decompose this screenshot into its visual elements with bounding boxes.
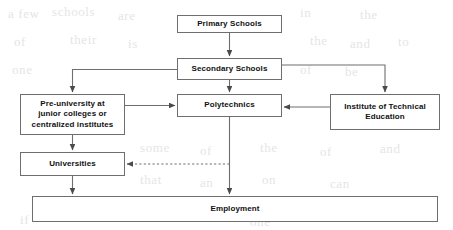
node-polytechnics-label: Polytechnics — [204, 100, 255, 111]
node-employment[interactable]: Employment — [32, 196, 438, 222]
node-polytechnics[interactable]: Polytechnics — [177, 94, 282, 117]
node-institute-of-technical-education-label: Institute of Technical Education — [344, 102, 426, 123]
flowchart-canvas: a few schools are in the of their is the… — [0, 0, 453, 230]
node-pre-university-label: Pre-university at junior colleges or cen… — [32, 99, 114, 131]
node-secondary-schools[interactable]: Secondary Schools — [177, 58, 282, 80]
edge-secondary-to-ite — [282, 65, 385, 92]
node-universities[interactable]: Universities — [20, 152, 125, 176]
node-primary-schools-label: Primary Schools — [197, 19, 262, 30]
node-employment-label: Employment — [210, 204, 259, 215]
node-secondary-schools-label: Secondary Schools — [192, 64, 268, 75]
node-pre-university[interactable]: Pre-university at junior colleges or cen… — [20, 94, 125, 135]
node-primary-schools[interactable]: Primary Schools — [177, 15, 282, 33]
node-universities-label: Universities — [49, 159, 96, 170]
edge-secondary-to-preuniversity — [73, 70, 178, 93]
node-institute-of-technical-education[interactable]: Institute of Technical Education — [330, 94, 440, 130]
